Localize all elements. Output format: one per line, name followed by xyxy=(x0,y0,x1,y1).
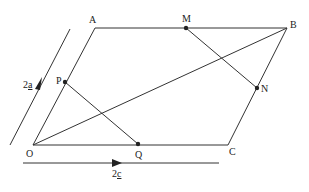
point-p-dot xyxy=(63,80,67,84)
parallelogram-diagram: A M B N P O Q C 2a 2c xyxy=(0,0,309,192)
label-q: Q xyxy=(135,150,142,160)
vector-2c-variable: c xyxy=(117,168,121,179)
label-o: O xyxy=(26,149,33,159)
segment-mn xyxy=(186,28,257,88)
label-p: P xyxy=(56,76,62,86)
label-vector-2c: 2c xyxy=(112,169,121,179)
vector-2a-variable: a xyxy=(28,79,32,90)
label-b: B xyxy=(290,20,297,30)
segment-pq xyxy=(65,82,138,144)
label-vector-2a: 2a xyxy=(23,80,32,90)
side-oa xyxy=(33,28,95,145)
label-n: N xyxy=(261,84,268,94)
arrow-2c-icon xyxy=(112,159,122,167)
arrow-2a-icon xyxy=(35,77,42,90)
label-c: C xyxy=(229,147,236,157)
point-m-dot xyxy=(184,26,188,30)
diagram-lines xyxy=(0,0,309,192)
point-q-dot xyxy=(136,142,140,146)
point-n-dot xyxy=(255,86,259,90)
label-a: A xyxy=(89,15,96,25)
diagonal-ob xyxy=(33,28,287,145)
label-m: M xyxy=(182,14,191,24)
